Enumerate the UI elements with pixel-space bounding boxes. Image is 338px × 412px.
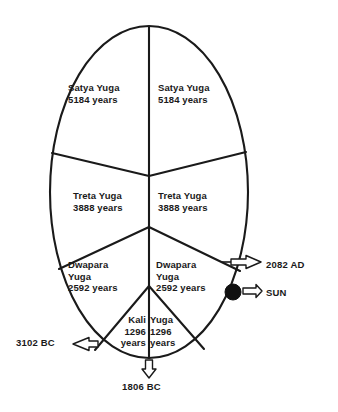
segment-label-kali-right: Yuga 1296 years [150,314,192,349]
segment-label-satya-left: Satya Yuga 5184 years [68,82,144,105]
segment-label-treta-left: Treta Yuga 3888 years [73,190,149,213]
segment-label-dwapara-right: Dwapara Yuga 2592 years [156,259,232,294]
callout-label-2082-ad: 2082 AD [266,259,305,270]
callout-label-sun: SUN [266,287,287,298]
segment-label-satya-right: Satya Yuga 5184 years [158,82,234,105]
arrow-down-1806bc [142,360,156,378]
segment-label-treta-right: Treta Yuga 3888 years [158,190,234,213]
callout-label-1806-bc: 1806 BC [122,381,161,392]
segment-label-kali-left: Kali 1296 years [108,314,146,349]
callout-label-3102-bc: 3102 BC [16,337,55,348]
arrow-left-3102bc [73,338,98,351]
segment-label-dwapara-left: Dwapara Yuga 2592 years [68,259,138,294]
yuga-cycle-diagram: Satya Yuga 5184 years Satya Yuga 5184 ye… [0,0,338,412]
arrow-right-sun [243,285,262,298]
